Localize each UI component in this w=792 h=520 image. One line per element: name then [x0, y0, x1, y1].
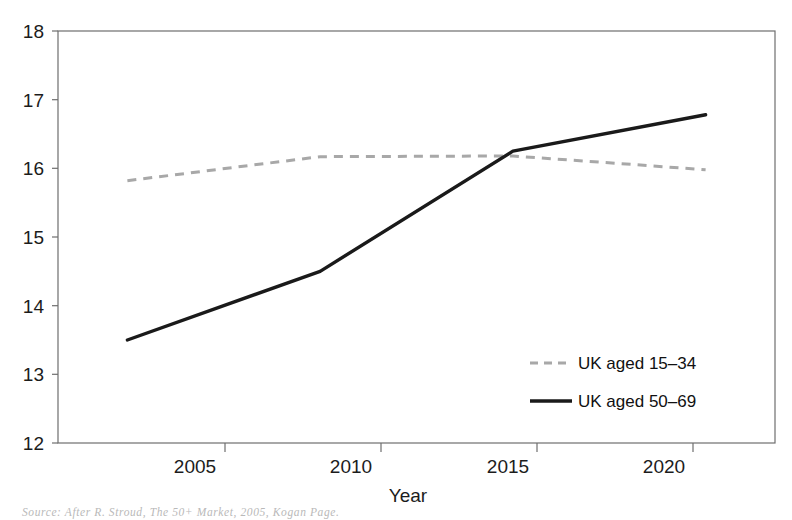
y-tick-label-17: 17: [23, 90, 44, 111]
plot-area-border: [58, 31, 775, 443]
x-axis-tick-labels: 2005 2010 2015 2020: [174, 456, 685, 477]
x-axis-ticks: [225, 443, 693, 452]
plot-frame: [58, 31, 775, 443]
y-tick-label-13: 13: [23, 364, 44, 385]
y-axis-tick-labels: 18 17 16 15 14 13 12: [23, 21, 45, 454]
y-tick-label-14: 14: [23, 296, 45, 317]
chart-figure: 18 17 16 15 14 13 12 2005 2010 2015 2020…: [0, 0, 792, 520]
x-tick-label-2010: 2010: [330, 456, 372, 477]
y-tick-label-18: 18: [23, 21, 44, 42]
x-axis-title: Year: [389, 485, 428, 506]
x-tick-label-2015: 2015: [487, 456, 529, 477]
x-tick-label-2005: 2005: [174, 456, 216, 477]
legend-label-uk-aged-15-34: UK aged 15–34: [578, 354, 696, 373]
y-tick-label-15: 15: [23, 227, 44, 248]
y-axis-ticks: [52, 31, 58, 443]
y-tick-label-16: 16: [23, 158, 44, 179]
source-caption: Source: After R. Stroud, The 50+ Market,…: [22, 506, 339, 518]
x-tick-label-2020: 2020: [643, 456, 685, 477]
legend-label-uk-aged-50-69: UK aged 50–69: [578, 392, 696, 411]
y-tick-label-12: 12: [23, 433, 44, 454]
line-chart: 18 17 16 15 14 13 12 2005 2010 2015 2020…: [0, 0, 792, 520]
